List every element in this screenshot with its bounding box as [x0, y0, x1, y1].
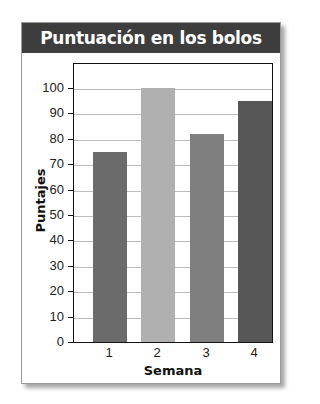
y-tick-mark	[68, 240, 73, 241]
y-tick-mark	[68, 190, 73, 191]
y-tick-label: 60	[22, 183, 64, 197]
y-tick-label: 10	[22, 310, 64, 324]
x-tick-label: 4	[237, 345, 271, 360]
y-tick-label: 80	[22, 132, 64, 146]
y-tick-label: 0	[22, 335, 64, 349]
y-tick-mark	[68, 113, 73, 114]
y-tick-mark	[68, 139, 73, 140]
y-tick-mark	[68, 291, 73, 292]
y-tick-mark	[68, 342, 73, 343]
x-tick-label: 2	[140, 345, 174, 360]
bar-week-4	[238, 101, 272, 342]
chart-card: Puntuación en los bolos Puntajes Semana …	[21, 22, 281, 384]
y-tick-mark	[68, 88, 73, 89]
y-tick-label: 30	[22, 259, 64, 273]
y-tick-label: 70	[22, 157, 64, 171]
plot-area	[73, 63, 273, 342]
y-tick-mark	[68, 317, 73, 318]
bar-week-3	[190, 134, 224, 342]
x-axis-label: Semana	[73, 363, 273, 378]
chart-title: Puntuación en los bolos	[22, 23, 280, 53]
y-tick-label: 20	[22, 284, 64, 298]
y-tick-label: 90	[22, 106, 64, 120]
y-tick-mark	[68, 215, 73, 216]
y-tick-label: 50	[22, 208, 64, 222]
y-tick-label: 40	[22, 233, 64, 247]
x-tick-label: 3	[189, 345, 223, 360]
y-tick-mark	[68, 164, 73, 165]
bar-week-1	[93, 152, 127, 343]
x-tick-label: 1	[92, 345, 126, 360]
y-tick-label: 100	[22, 81, 64, 95]
bar-week-2	[141, 88, 175, 342]
y-tick-mark	[68, 266, 73, 267]
x-axis-line	[73, 342, 273, 343]
